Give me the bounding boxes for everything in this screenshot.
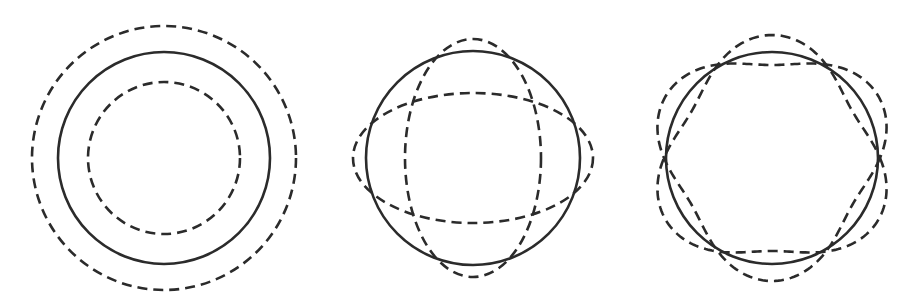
- perturbed-shape-1: [657, 35, 886, 252]
- equilibrium-circle: [366, 51, 580, 265]
- perturbed-shape-1: [32, 26, 296, 290]
- panel-mode-breathing: [32, 26, 296, 290]
- panel-mode-n2: [353, 39, 593, 277]
- perturbed-shape-2: [88, 82, 240, 234]
- oscillation-modes-diagram: [0, 0, 917, 308]
- perturbed-shape-1: [353, 93, 593, 223]
- equilibrium-circle: [666, 52, 878, 264]
- panel-mode-n3: [657, 35, 886, 281]
- perturbed-shape-2: [657, 64, 886, 281]
- equilibrium-circle: [58, 52, 270, 264]
- perturbed-shape-2: [405, 39, 541, 277]
